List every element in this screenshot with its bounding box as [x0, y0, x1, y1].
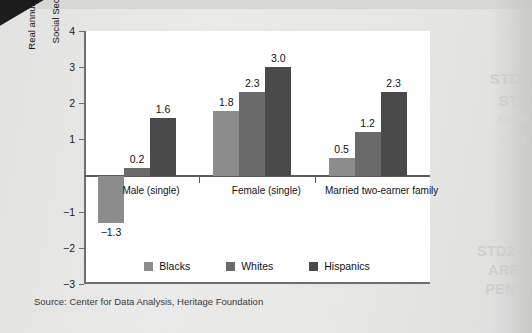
legend-item: Whites	[226, 260, 273, 272]
x-axis-group-label: Married two-earner family	[325, 185, 438, 196]
y-tick-label: 1	[69, 133, 75, 145]
bleed-text-5: ARRE	[488, 262, 530, 278]
y-tick	[79, 139, 84, 140]
chart-figure: 4321−1−2−3 −1.30.21.61.82.33.00.51.22.3 …	[84, 31, 430, 284]
bar-value-label: 1.6	[156, 103, 171, 115]
legend-swatch-icon	[144, 262, 153, 271]
bar-value-label: 1.2	[360, 117, 375, 129]
legend-label: Blacks	[159, 260, 190, 272]
legend-item: Blacks	[144, 260, 190, 272]
bar-value-label: −1.3	[101, 226, 122, 238]
bar	[381, 92, 407, 175]
y-tick-label: −1	[63, 206, 75, 218]
legend-swatch-icon	[309, 262, 318, 271]
x-axis-group-label: Male (single)	[122, 185, 179, 196]
bar-value-label: 0.5	[334, 143, 349, 155]
page-top-band	[0, 0, 532, 9]
y-tick-label: −2	[63, 242, 75, 254]
bar-value-label: 1.8	[219, 96, 234, 108]
legend-item: Hispanics	[309, 260, 370, 272]
bar-value-label: 2.3	[386, 77, 401, 89]
y-axis-title: Real annual projected rate of return on …	[26, 0, 62, 50]
bar-value-label: 3.0	[271, 52, 286, 64]
y-tick	[79, 103, 84, 104]
x-tick	[199, 177, 200, 183]
x-axis-bottom-line	[84, 282, 430, 284]
y-tick	[79, 31, 84, 32]
scanned-page: STD2 STD ABBRE PENSI STD2-S ARRE PENSI R…	[0, 0, 532, 333]
bar	[150, 118, 176, 176]
y-tick-label: 2	[69, 97, 75, 109]
bleed-text-0: STD2	[490, 70, 530, 87]
bar	[124, 168, 150, 175]
bar	[329, 158, 355, 176]
y-axis-line	[84, 31, 86, 284]
bleed-text-1: STD	[499, 92, 531, 109]
bar	[98, 176, 124, 223]
bleed-text-4: STD2-S	[477, 243, 530, 259]
legend-swatch-icon	[226, 262, 235, 271]
y-tick	[79, 248, 84, 249]
bleed-text-2: ABBRE	[497, 114, 530, 124]
legend-label: Hispanics	[324, 260, 370, 272]
bar-value-label: 0.2	[130, 153, 145, 165]
bleed-text-3: PENSI	[500, 136, 530, 146]
x-axis-group-label: Female (single)	[232, 185, 301, 196]
y-tick-label: 4	[69, 25, 75, 37]
y-tick	[79, 212, 84, 213]
chart-legend: BlacksWhitesHispanics	[84, 260, 430, 272]
bar	[355, 132, 381, 175]
bar	[213, 111, 239, 176]
y-tick-label: −3	[63, 278, 75, 290]
legend-label: Whites	[241, 260, 273, 272]
plot-area: 4321−1−2−3 −1.30.21.61.82.33.00.51.22.3 …	[84, 31, 430, 284]
y-tick	[79, 284, 84, 285]
y-tick-label: 3	[69, 61, 75, 73]
bar	[239, 92, 265, 175]
bar	[265, 67, 291, 175]
source-note: Source: Center for Data Analysis, Herita…	[34, 296, 263, 307]
bar-value-label: 2.3	[245, 77, 260, 89]
y-tick	[79, 67, 84, 68]
bleed-text-6: PENSI	[485, 281, 530, 297]
x-tick	[315, 177, 316, 183]
